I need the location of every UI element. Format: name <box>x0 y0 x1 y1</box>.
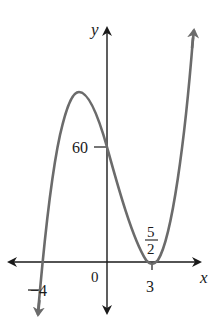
curve-arrow-bottom <box>38 300 40 315</box>
x-axis-label: x <box>199 268 208 287</box>
fraction-numerator: 5 <box>147 224 155 240</box>
fraction-denominator: 2 <box>147 241 155 257</box>
y-axis-label: y <box>89 20 99 39</box>
fraction-label-5-over-2: 5 2 <box>145 224 158 257</box>
y-tick-label-60: 60 <box>72 139 88 156</box>
curve-f <box>38 38 193 312</box>
x-tick-label-3: 3 <box>146 278 154 295</box>
x-tick-label-neg4: −4 <box>30 282 47 299</box>
origin-label: 0 <box>91 269 99 285</box>
cubic-function-graph: y x 0 60 3 −4 5 2 <box>0 0 217 322</box>
